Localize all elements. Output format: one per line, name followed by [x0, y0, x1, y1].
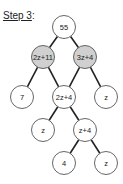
tree-edge	[70, 107, 79, 121]
number-pyramid-tree: 552z+113z+472z+4zzz+44z	[0, 0, 123, 184]
node-label: 55	[60, 23, 68, 32]
tree-edge	[90, 67, 100, 87]
tree-node-n7: 7	[11, 86, 34, 109]
tree-node-n2z11: 2z+11	[32, 46, 55, 69]
node-label: z+4	[79, 126, 91, 135]
tree-node-nz2: z	[32, 119, 55, 142]
node-label: 2z+4	[56, 93, 72, 102]
tree-node-nz4: z+4	[74, 119, 97, 142]
tree-node-n4: 4	[53, 152, 76, 175]
tree-edge	[70, 140, 79, 154]
tree-node-nz3: z	[95, 152, 118, 175]
tree-edge	[91, 140, 100, 154]
tree-edge	[49, 107, 58, 121]
node-label: z	[104, 93, 108, 102]
tree-edge	[71, 36, 79, 47]
tree-edge	[50, 36, 58, 47]
node-label: z	[104, 159, 108, 168]
tree-edge	[27, 67, 37, 87]
node-label: 3z+4	[77, 53, 93, 62]
tree-node-n55: 55	[53, 16, 76, 39]
node-label: z	[41, 126, 45, 135]
tree-node-n3z4: 3z+4	[74, 46, 97, 69]
tree-edge	[69, 67, 79, 87]
node-label: 7	[20, 93, 24, 102]
tree-node-nz1: z	[95, 86, 118, 109]
node-label: 2z+11	[33, 53, 53, 62]
tree-edge	[48, 67, 58, 87]
node-label: 4	[62, 159, 66, 168]
tree-node-n2z4: 2z+4	[53, 86, 76, 109]
